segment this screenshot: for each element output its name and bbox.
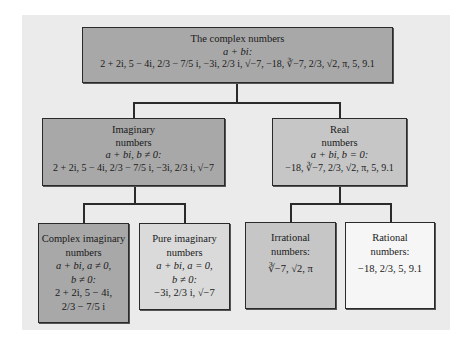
connector-to-imaginary	[133, 102, 135, 118]
node-examples: ∛−7, √2, π	[246, 262, 335, 276]
node-title-line2: numbers	[273, 137, 406, 150]
node-rational-numbers: Rational numbers: −18, 2/3, 5, 9.1	[345, 222, 435, 309]
node-examples: −18, ∛−7, 2/3, √2, π, 5, 9.1	[273, 162, 406, 175]
node-examples-line2: 2/3 − 7/5 i	[39, 300, 128, 314]
node-examples: 2 + 2i, 5 − 4i, 2/3 − 7/5 i, −3i, 2/3 i,…	[83, 58, 392, 71]
node-examples: −18, 2/3, 5, 9.1	[346, 262, 434, 276]
node-examples-line1: 2 + 2i, 5 − 4i,	[39, 286, 128, 300]
connector-level2-right-horizontal	[290, 203, 391, 205]
node-form-line2: b ≠ 0:	[39, 273, 128, 287]
node-title-line2: numbers	[140, 246, 229, 260]
connector-to-complex-imaginary	[83, 203, 85, 223]
connector-complex-down	[236, 83, 238, 102]
node-title-line1: Pure imaginary	[140, 232, 229, 246]
node-form-line1: a + bi, a ≠ 0,	[39, 259, 128, 273]
connector-to-pure-imaginary	[184, 203, 186, 223]
node-complex-numbers: The complex numbers a + bi: 2 + 2i, 5 − …	[82, 27, 393, 83]
node-title-line2: numbers:	[346, 245, 434, 259]
node-imaginary-numbers: Imaginary numbers a + bi, b ≠ 0: 2 + 2i,…	[42, 118, 225, 186]
node-title-line1: Imaginary	[43, 124, 224, 137]
node-form-line1: a + bi, a = 0,	[140, 259, 229, 273]
node-title-line2: numbers	[43, 137, 224, 150]
node-form: a + bi:	[83, 46, 392, 59]
node-title-line1: Complex imaginary	[39, 232, 128, 246]
node-examples: 2 + 2i, 5 − 4i, 2/3 − 7/5 i, −3i, 2/3 i,…	[43, 162, 224, 175]
node-real-numbers: Real numbers a + bi, b = 0: −18, ∛−7, 2/…	[272, 118, 407, 186]
node-irrational-numbers: Irrational numbers: ∛−7, √2, π	[245, 222, 336, 309]
connector-to-rational	[390, 203, 392, 223]
node-title-line1: Real	[273, 124, 406, 137]
node-examples: −3i, 2/3 i, √−7	[140, 286, 229, 300]
node-title-line1: Rational	[346, 231, 434, 245]
node-form: a + bi, b ≠ 0:	[43, 149, 224, 162]
connector-level1-horizontal	[133, 102, 340, 104]
connector-to-real	[339, 102, 341, 118]
node-title-line2: numbers	[39, 246, 128, 260]
node-complex-imaginary-numbers: Complex imaginary numbers a + bi, a ≠ 0,…	[38, 223, 129, 323]
node-title-line2: numbers:	[246, 245, 335, 259]
node-title-line1: Irrational	[246, 231, 335, 245]
node-form: a + bi, b = 0:	[273, 149, 406, 162]
node-form-line2: b ≠ 0:	[140, 273, 229, 287]
connector-real-down	[339, 186, 341, 203]
connector-imaginary-down	[134, 186, 136, 203]
node-pure-imaginary-numbers: Pure imaginary numbers a + bi, a = 0, b …	[139, 223, 230, 310]
node-title: The complex numbers	[83, 33, 392, 46]
connector-level2-left-horizontal	[83, 203, 185, 205]
connector-to-irrational	[290, 203, 292, 223]
